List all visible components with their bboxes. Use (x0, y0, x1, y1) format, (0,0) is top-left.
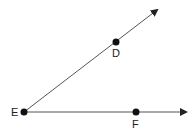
ray-ed (24, 10, 157, 112)
label-f: F (132, 118, 139, 130)
label-e: E (11, 106, 18, 118)
label-d: D (112, 47, 120, 59)
point-e (21, 109, 28, 116)
angle-diagram: E D F (0, 0, 196, 130)
point-d (113, 39, 120, 46)
point-f (133, 109, 140, 116)
